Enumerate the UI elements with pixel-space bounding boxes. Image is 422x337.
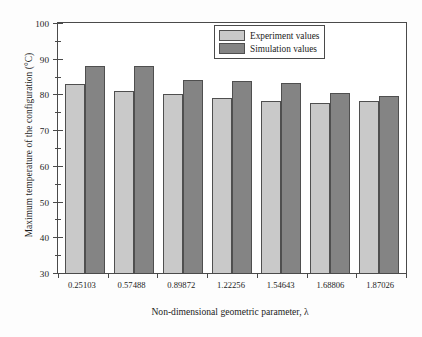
simulation-bar <box>183 80 203 273</box>
simulation-bar <box>85 66 105 274</box>
legend-item-simulation: Simulation values <box>219 43 319 54</box>
bar-group <box>114 23 154 273</box>
bar-groups <box>58 23 406 273</box>
x-tick <box>257 273 258 278</box>
y-tick-label: 60 <box>40 162 49 172</box>
bar-group <box>163 23 203 273</box>
x-axis-title: Non-dimensional geometric parameter, λ <box>55 306 405 317</box>
bar-group <box>310 23 350 273</box>
y-tick-inner <box>58 59 63 60</box>
experiment-bar <box>212 98 232 273</box>
bar-group <box>212 23 252 273</box>
plot-area: 30405060708090100 <box>57 22 407 274</box>
experiment-bar <box>65 84 85 273</box>
x-tick <box>108 273 109 278</box>
y-tick-minor-inner <box>58 184 61 185</box>
x-tick <box>58 273 59 278</box>
experiment-bar <box>310 103 330 273</box>
bar-group <box>65 23 105 273</box>
y-tick-inner <box>58 202 63 203</box>
y-tick-label: 90 <box>40 55 49 65</box>
bar-group <box>261 23 301 273</box>
y-tick-inner <box>58 130 63 131</box>
y-tick-label: 100 <box>35 19 49 29</box>
y-tick-label: 30 <box>40 269 49 279</box>
x-tick-label: 1.22256 <box>217 280 245 290</box>
x-tick-label: 1.68806 <box>316 280 344 290</box>
y-tick-inner <box>58 23 63 24</box>
y-axis-title: Maximum temperature of the configuration… <box>24 20 34 270</box>
y-tick-label: 40 <box>40 233 49 243</box>
legend-item-experiment: Experiment values <box>219 30 319 41</box>
experiment-bar <box>261 101 281 274</box>
y-tick-minor-inner <box>58 112 61 113</box>
y-tick-inner <box>58 166 63 167</box>
simulation-bar <box>232 81 252 273</box>
simulation-bar <box>281 83 301 273</box>
simulation-bar <box>330 93 350 273</box>
x-tick-label: 0.57488 <box>118 280 146 290</box>
x-tick-label: 0.89872 <box>167 280 195 290</box>
chart-legend: Experiment values Simulation values <box>214 25 325 59</box>
y-tick-label: 70 <box>40 126 49 136</box>
legend-label-simulation: Simulation values <box>250 44 317 54</box>
x-tick <box>157 273 158 278</box>
simulation-swatch-icon <box>219 43 245 54</box>
y-tick-label: 50 <box>40 197 49 207</box>
x-tick <box>207 273 208 278</box>
y-tick-inner <box>58 94 63 95</box>
bar-chart-figure: Maximum temperature of the configuration… <box>0 0 422 337</box>
simulation-bar <box>134 66 154 274</box>
simulation-bar <box>379 96 399 273</box>
experiment-swatch-icon <box>219 30 245 41</box>
x-tick <box>406 273 407 278</box>
y-tick-minor-inner <box>58 148 61 149</box>
experiment-bar <box>163 94 183 273</box>
y-tick-inner <box>58 237 63 238</box>
y-tick-minor-inner <box>58 41 61 42</box>
experiment-bar <box>114 91 134 274</box>
experiment-bar <box>359 101 379 273</box>
bar-group <box>359 23 399 273</box>
legend-label-experiment: Experiment values <box>250 31 319 41</box>
x-tick-label: 0.25103 <box>68 280 96 290</box>
x-tick <box>356 273 357 278</box>
y-tick-minor-inner <box>58 219 61 220</box>
y-tick-label: 80 <box>40 90 49 100</box>
x-tick-label: 1.54643 <box>267 280 295 290</box>
y-tick-minor-inner <box>58 255 61 256</box>
x-tick-label: 1.87026 <box>366 280 394 290</box>
y-tick-minor-inner <box>58 77 61 78</box>
x-tick <box>307 273 308 278</box>
